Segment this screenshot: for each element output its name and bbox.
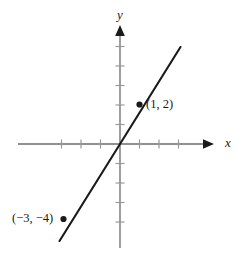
x-axis-arrowhead	[203, 139, 214, 149]
point-label-minus3-minus4: (−3, −4)	[12, 212, 53, 225]
point-label-1-2: (1, 2)	[146, 98, 173, 111]
data-point-marker-minus3-minus4	[60, 216, 66, 222]
y-axis-label: y	[117, 8, 123, 21]
x-axis-label: x	[225, 136, 231, 149]
y-axis-group	[115, 25, 125, 248]
data-point-marker-1-2	[136, 101, 142, 107]
graph-figure: y x (1, 2) (−3, −4)	[0, 0, 245, 257]
x-axis-group	[18, 139, 214, 149]
y-axis-arrowhead	[115, 25, 125, 36]
